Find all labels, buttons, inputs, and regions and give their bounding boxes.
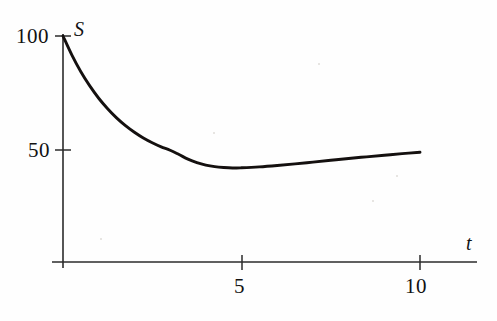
chart-figure: 100 50 5 10 S t [0,0,497,321]
y-tick-label-50: 50 [28,138,50,163]
y-tick-label-100: 100 [16,24,49,49]
x-tick-label-10: 10 [405,274,427,299]
data-curve-s-of-t [63,36,420,168]
x-tick-label-5: 5 [234,274,245,299]
x-axis-label: t [466,232,472,255]
chart-canvas [0,0,497,321]
y-axis-label: S [74,18,84,41]
